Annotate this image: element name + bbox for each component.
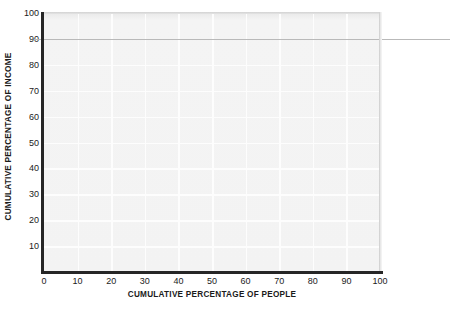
plot-right-edge bbox=[379, 12, 382, 272]
y-axis-tick-label: 80 bbox=[29, 60, 39, 70]
gridline-horizontal bbox=[44, 91, 380, 93]
x-axis-tick-label: 100 bbox=[372, 276, 387, 286]
y-axis-line bbox=[41, 12, 44, 274]
gridline-horizontal bbox=[44, 143, 380, 145]
x-axis-tick-labels: 0102030405060708090100 bbox=[44, 276, 380, 290]
x-axis-tick-label: 20 bbox=[106, 276, 116, 286]
gridline-horizontal bbox=[44, 194, 380, 196]
x-axis-tick-label: 30 bbox=[140, 276, 150, 286]
y-axis-tick-label: 70 bbox=[29, 86, 39, 96]
y-axis-tick-label: 20 bbox=[29, 215, 39, 225]
x-axis-tick-label: 60 bbox=[241, 276, 251, 286]
x-axis-title: CUMULATIVE PERCENTAGE OF PEOPLE bbox=[44, 290, 380, 299]
x-axis-tick-label: 70 bbox=[274, 276, 284, 286]
gridline-horizontal bbox=[44, 220, 380, 222]
reference-line-90 bbox=[34, 39, 450, 40]
y-axis-tick-label: 30 bbox=[29, 189, 39, 199]
gridline-horizontal bbox=[44, 168, 380, 170]
x-axis-tick-label: 10 bbox=[73, 276, 83, 286]
y-axis-tick-label: 40 bbox=[29, 163, 39, 173]
x-axis-tick-label: 40 bbox=[173, 276, 183, 286]
x-axis-tick-label: 0 bbox=[41, 276, 46, 286]
gridline-horizontal bbox=[44, 65, 380, 67]
gridline-horizontal bbox=[44, 246, 380, 248]
y-axis-tick-labels: 102030405060708090100 bbox=[14, 13, 42, 272]
x-axis-line bbox=[41, 271, 383, 274]
y-axis-tick-label: 50 bbox=[29, 138, 39, 148]
x-axis-tick-label: 90 bbox=[341, 276, 351, 286]
y-axis-tick-label: 100 bbox=[24, 8, 39, 18]
y-axis-tick-label: 10 bbox=[29, 241, 39, 251]
y-axis-title-text: CUMULATIVE PERCENTAGE OF INCOME bbox=[4, 52, 13, 220]
y-axis-tick-label: 60 bbox=[29, 112, 39, 122]
gridline-horizontal bbox=[44, 117, 380, 119]
x-axis-tick-label: 50 bbox=[207, 276, 217, 286]
plot-top-edge bbox=[44, 12, 381, 14]
x-axis-tick-label: 80 bbox=[308, 276, 318, 286]
plot-area bbox=[44, 13, 380, 272]
